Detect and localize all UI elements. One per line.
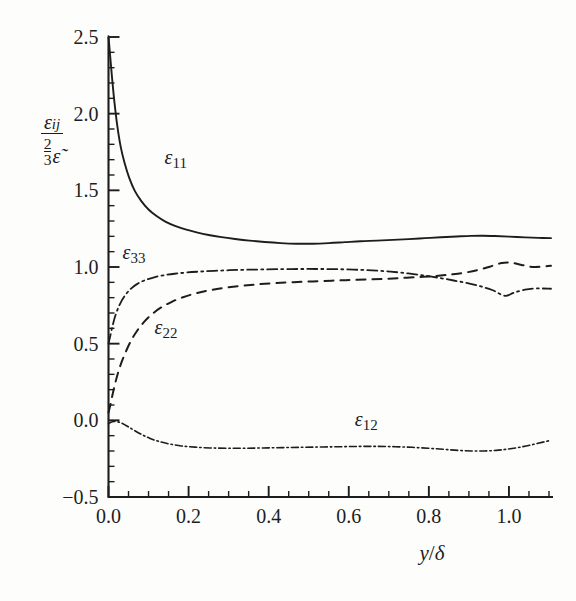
y-axis-title-denominator: 23ε̃	[41, 133, 64, 168]
data-curves	[109, 36, 551, 451]
y-tick-label: 0.5	[74, 333, 99, 355]
y-tick-label: 2.5	[74, 26, 99, 48]
series-label-eps11: ε11	[165, 146, 187, 171]
y-tick-label: 1.0	[74, 256, 99, 278]
y-tick-label: −0.5	[62, 486, 98, 508]
y-axis-title-numerator: εij	[41, 112, 64, 133]
x-axis-title: y/δ	[418, 541, 446, 565]
curve-eps12	[109, 422, 551, 452]
series-label-eps12: ε12	[355, 408, 378, 433]
x-tick-label: 0.8	[416, 505, 441, 527]
x-tick-label: 0.6	[336, 505, 361, 527]
two-thirds-fraction: 23	[44, 136, 52, 168]
y-axis-title: εij 23ε̃	[14, 112, 90, 168]
y-axis-title-fraction: εij 23ε̃	[41, 112, 64, 168]
figure-container: εij 23ε̃ −0.50.00.51.01.52.02.50.00.20.4…	[0, 0, 576, 601]
y-tick-label: 0.0	[74, 409, 99, 431]
x-tick-label: 1.0	[496, 505, 521, 527]
axis-ticks	[109, 37, 549, 497]
x-axis-title-text: y/δ	[418, 541, 446, 565]
series-annotations: ε11ε33ε22ε12	[123, 146, 378, 432]
chart-plot-area: −0.50.00.51.01.52.02.50.00.20.40.60.81.0…	[0, 0, 576, 601]
curve-eps11	[109, 36, 551, 244]
series-label-eps33: ε33	[123, 241, 146, 266]
axis-tick-labels: −0.50.00.51.01.52.02.50.00.20.40.60.81.0	[62, 26, 521, 527]
x-tick-label: 0.0	[96, 505, 121, 527]
x-tick-label: 0.4	[256, 505, 281, 527]
series-label-eps22: ε22	[155, 316, 178, 341]
y-tick-label: 1.5	[74, 179, 99, 201]
x-tick-label: 0.2	[176, 505, 201, 527]
